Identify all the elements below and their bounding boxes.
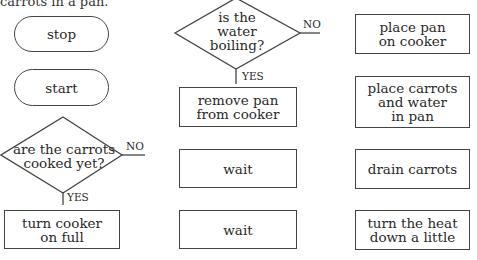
process-wait-1: wait [179, 149, 297, 188]
process-label: remove pan from cooker [196, 93, 279, 121]
process-turn-heat-down: turn the heat down a little [355, 210, 470, 250]
process-label: place carrots and water in pan [368, 81, 458, 123]
process-drain-carrots: drain carrots [355, 149, 470, 189]
process-turn-cooker-full: turn cooker on full [4, 210, 120, 249]
yes-label-water: YES [242, 70, 264, 82]
process-label: turn the heat down a little [367, 216, 457, 244]
process-label: wait [223, 223, 252, 237]
process-wait-2: wait [179, 210, 297, 249]
process-label: wait [223, 162, 252, 176]
yes-label-carrots: YES [67, 191, 89, 203]
decision-water-boiling-label: is the water boiling? [195, 10, 279, 52]
process-place-pan: place pan on cooker [355, 14, 470, 54]
no-label-water: NO [303, 18, 321, 30]
process-remove-pan: remove pan from cooker [179, 87, 297, 127]
decision-carrots-cooked-label: are the carrots cooked yet? [10, 142, 118, 170]
no-label-carrots: NO [126, 140, 144, 152]
process-label: turn cooker on full [22, 216, 102, 244]
process-label: drain carrots [368, 162, 457, 176]
process-label: place pan on cooker [379, 20, 447, 48]
process-place-carrots: place carrots and water in pan [355, 76, 470, 128]
